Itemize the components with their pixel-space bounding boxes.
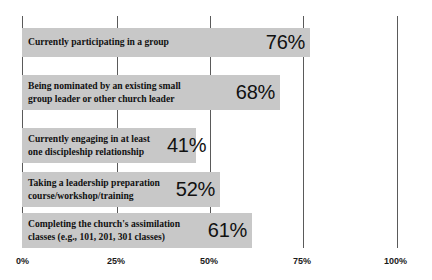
bar-row: Being nominated by an existing small gro… bbox=[22, 75, 280, 110]
x-tick-label: 25% bbox=[107, 256, 125, 266]
bar-label: Currently engaging in at least one disci… bbox=[28, 133, 150, 158]
x-tick-label: 50% bbox=[200, 256, 218, 266]
bar-row: Currently engaging in at least one disci… bbox=[22, 128, 196, 163]
bar-value-label: 76% bbox=[259, 31, 305, 54]
bar-label: Taking a leadership preparation course/w… bbox=[28, 177, 160, 202]
bar-row: Completing the church's assimilation cla… bbox=[22, 213, 252, 248]
bar-label: Currently participating in a group bbox=[28, 36, 169, 48]
bar-chart: Currently participating in a group76%Bei… bbox=[0, 0, 432, 280]
x-tick-label: 75% bbox=[293, 256, 311, 266]
bar-value-label: 41% bbox=[167, 134, 206, 157]
x-tick-label: 0% bbox=[16, 256, 29, 266]
bar-label: Completing the church's assimilation cla… bbox=[28, 218, 180, 243]
gridline-100pct bbox=[397, 16, 398, 248]
bar-row: Currently participating in a group76% bbox=[22, 28, 310, 57]
bar-label: Being nominated by an existing small gro… bbox=[28, 80, 181, 105]
bar-row: Taking a leadership preparation course/w… bbox=[22, 172, 220, 207]
bar-value-label: 52% bbox=[169, 178, 215, 201]
bar-value-label: 61% bbox=[201, 219, 247, 242]
bar-value-label: 68% bbox=[229, 81, 275, 104]
x-tick-label: 100% bbox=[384, 256, 407, 266]
